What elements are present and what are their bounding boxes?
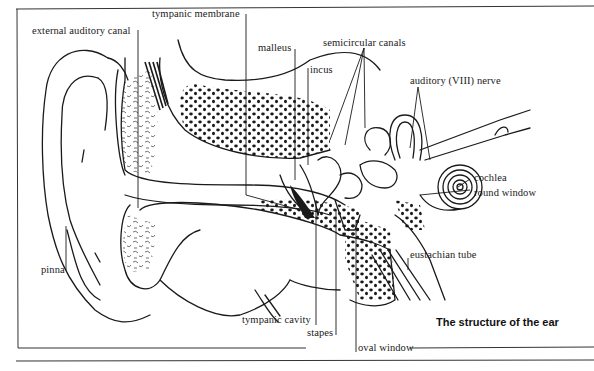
label-tympanic-cavity: tympanic cavity (242, 315, 311, 326)
figure-caption: The structure of the ear (436, 317, 559, 328)
label-oval-window: oval window (358, 343, 414, 354)
label-round-window: round window (474, 188, 536, 199)
label-malleus: malleus (258, 43, 291, 54)
label-eustachian-tube: eustachian tube (410, 250, 477, 261)
label-incus: incus (310, 65, 333, 76)
label-auditory-nerve: auditory (VIII) nerve (410, 76, 501, 87)
label-stapes: stapes (307, 328, 333, 339)
label-cochlea: cochlea (474, 173, 507, 184)
ear-structure-diagram: external auditory canal tympanic membran… (0, 0, 594, 371)
figure-frame (16, 6, 594, 361)
label-tympanic-membrane: tympanic membrane (152, 9, 240, 20)
label-pinna: pinna (41, 265, 65, 276)
label-external-auditory-canal: external auditory canal (32, 26, 131, 37)
label-semicircular-canals: semicircular canals (323, 38, 406, 49)
